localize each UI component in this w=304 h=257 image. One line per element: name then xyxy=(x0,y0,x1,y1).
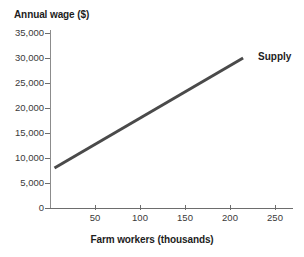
x-tick-mark xyxy=(230,205,231,210)
supply-curve-chart: Annual wage ($) 05,00010,00015,00020,000… xyxy=(0,0,304,257)
x-tick-mark xyxy=(185,205,186,210)
x-axis-line xyxy=(50,208,293,209)
y-tick-label: 20,000 xyxy=(0,102,44,113)
supply-line-path xyxy=(55,58,244,168)
y-tick-label: 25,000 xyxy=(0,77,44,88)
y-tick-mark xyxy=(45,33,50,34)
x-tick-label: 250 xyxy=(255,212,295,223)
y-tick-label: 5,000 xyxy=(0,177,44,188)
y-tick-mark xyxy=(45,158,50,159)
x-tick-mark xyxy=(95,205,96,210)
y-tick-mark xyxy=(45,58,50,59)
x-tick-label: 50 xyxy=(75,212,115,223)
x-tick-mark xyxy=(275,205,276,210)
y-tick-label: 15,000 xyxy=(0,127,44,138)
x-axis-title: Farm workers (thousands) xyxy=(0,234,304,245)
y-tick-mark xyxy=(45,183,50,184)
x-tick-label: 200 xyxy=(210,212,250,223)
y-axis-title: Annual wage ($) xyxy=(14,9,89,20)
y-tick-label: 10,000 xyxy=(0,152,44,163)
x-tick-mark xyxy=(140,205,141,210)
x-tick-label: 150 xyxy=(165,212,205,223)
y-tick-label: 35,000 xyxy=(0,27,44,38)
y-tick-label: 30,000 xyxy=(0,52,44,63)
y-tick-label: 0 xyxy=(0,202,44,213)
y-tick-mark xyxy=(45,108,50,109)
x-tick-label: 100 xyxy=(120,212,160,223)
supply-series-label: Supply xyxy=(258,51,291,62)
y-tick-mark xyxy=(45,133,50,134)
y-tick-mark xyxy=(45,208,50,209)
y-axis-line xyxy=(50,30,51,209)
y-tick-mark xyxy=(45,83,50,84)
